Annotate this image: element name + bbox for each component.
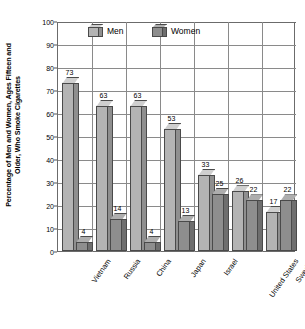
y-axis-title-line-2: Older, Who Smoke Cigarettes	[13, 43, 23, 207]
y-tick-label: 80	[38, 65, 54, 72]
bar-value-label: 33	[197, 161, 215, 168]
x-axis-label-russia: Russia	[122, 257, 143, 281]
y-tick-label: 50	[38, 134, 54, 141]
bar-value-label: 63	[129, 92, 147, 99]
y-tick-label: 30	[38, 180, 54, 187]
bar-women-china	[144, 242, 156, 251]
y-tick-label: 20	[38, 203, 54, 210]
bar-men-united-states	[232, 191, 244, 251]
gridline-vertical	[126, 22, 127, 252]
plot-area	[57, 22, 295, 252]
y-axis-ticks: 0102030405060708090100	[36, 0, 54, 329]
bar-women-united-states	[246, 200, 258, 251]
bar-value-label: 14	[109, 205, 127, 212]
y-tick-label: 0	[38, 249, 54, 256]
gridline-vertical	[92, 22, 93, 252]
bar-value-label: 4	[143, 228, 161, 235]
bar-value-label: 22	[245, 186, 263, 193]
gridline-vertical	[160, 22, 161, 252]
y-axis-title-line-1: Percentage of Men and Women, Ages Fiftee…	[4, 43, 14, 207]
bar-chart: Percentage of Men and Women, Ages Fiftee…	[0, 0, 305, 329]
y-tick-label: 100	[38, 19, 54, 26]
bar-women-israel	[212, 194, 224, 252]
y-tick-label: 60	[38, 111, 54, 118]
x-axis-label-china: China	[154, 257, 173, 278]
bar-value-label: 4	[75, 228, 93, 235]
x-axis-label-israel: Israel	[222, 257, 240, 277]
y-tick-label: 40	[38, 157, 54, 164]
legend-swatch-women-icon	[152, 24, 167, 37]
y-tick-label: 90	[38, 42, 54, 49]
gridline-vertical	[194, 22, 195, 252]
legend-item-women: Women	[152, 24, 200, 37]
x-axis-label-japan: Japan	[189, 257, 208, 279]
y-axis-title: Percentage of Men and Women, Ages Fiftee…	[0, 0, 26, 250]
legend-item-men: Men	[88, 24, 124, 37]
bar-value-label: 13	[177, 207, 195, 214]
y-tick-label: 70	[38, 88, 54, 95]
x-axis-label-vietnam: Vietnam	[90, 257, 113, 285]
bar-men-japan	[164, 129, 176, 251]
bar-men-china	[130, 106, 142, 251]
bar-men-vietnam	[62, 83, 74, 251]
bar-women-vietnam	[76, 242, 88, 251]
bar-value-label: 17	[265, 198, 283, 205]
legend-label-men: Men	[107, 26, 124, 36]
bar-women-japan	[178, 221, 190, 251]
bar-value-label: 26	[231, 177, 249, 184]
bar-value-label: 22	[279, 186, 297, 193]
bar-value-label: 25	[211, 180, 229, 187]
bar-women-sweden	[280, 200, 292, 251]
bar-men-russia	[96, 106, 108, 251]
plot-top-border	[58, 22, 296, 23]
bar-men-israel	[198, 175, 210, 251]
bar-value-label: 73	[61, 69, 79, 76]
y-tick-label: 10	[38, 226, 54, 233]
bar-value-label: 63	[95, 92, 113, 99]
bar-value-label: 53	[163, 115, 181, 122]
gridline-horizontal	[58, 68, 296, 69]
gridline-horizontal	[58, 45, 296, 46]
legend-label-women: Women	[171, 26, 200, 36]
legend-swatch-men-icon	[88, 24, 103, 37]
bar-women-russia	[110, 219, 122, 251]
bar-men-sweden	[266, 212, 278, 251]
